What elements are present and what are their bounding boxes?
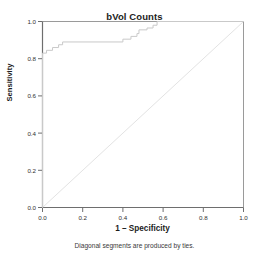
y-tick-label: 0.2 bbox=[27, 167, 36, 174]
chart-footnote: Diagonal segments are produced by ties. bbox=[0, 242, 269, 249]
x-tick-label: 0.6 bbox=[159, 214, 168, 221]
y-tick-label: 0.6 bbox=[27, 92, 36, 99]
y-tick-label: 0.0 bbox=[27, 204, 36, 211]
y-tick-label: 0.4 bbox=[27, 130, 36, 137]
y-tick-label: 0.8 bbox=[27, 55, 36, 62]
y-axis-title: Sensitivity bbox=[5, 43, 14, 123]
roc-chart-figure: bVol Counts 1.0 0.8 0.6 0.4 0.2 0.0 bbox=[0, 0, 269, 258]
x-tick-label: 0.4 bbox=[119, 214, 128, 221]
x-tick-label: 0.0 bbox=[38, 214, 47, 221]
x-tick-label: 0.2 bbox=[78, 214, 87, 221]
x-axis-ticks: 0.0 0.2 0.4 0.6 0.8 1.0 bbox=[38, 208, 248, 222]
y-tick-label: 1.0 bbox=[27, 18, 36, 25]
y-axis-title-text: Sensitivity bbox=[5, 64, 14, 102]
reference-diagonal-line bbox=[43, 22, 244, 208]
x-tick-label: 1.0 bbox=[239, 214, 248, 221]
x-tick-label: 0.8 bbox=[199, 214, 208, 221]
y-axis-ticks: 1.0 0.8 0.6 0.4 0.2 0.0 bbox=[27, 18, 42, 211]
x-axis-title: 1 – Specificity bbox=[42, 224, 243, 233]
plot-area: 1.0 0.8 0.6 0.4 0.2 0.0 0.0 0.2 0.4 0.6 … bbox=[0, 0, 269, 258]
